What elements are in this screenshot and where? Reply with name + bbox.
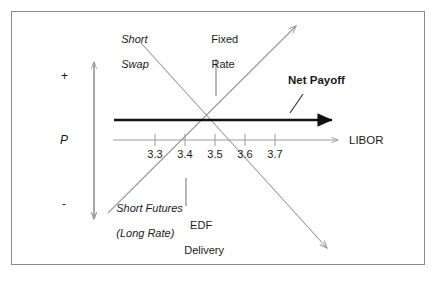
short-futures-label-line2: (Long Rate) (116, 227, 174, 239)
tick-label-3-6: 3.6 (231, 148, 259, 160)
tick-label-3-3: 3.3 (141, 148, 169, 160)
diagram-canvas: Short Swap Fixed Rate Net Payoff Short F… (0, 0, 440, 284)
tick-label-3-5: 3.5 (201, 148, 229, 160)
short-swap-label-line2: Swap (121, 58, 149, 70)
edf-delivery-label-line1: EDF (190, 219, 212, 231)
edf-delivery-label-line2: Delivery (184, 244, 224, 256)
tick-label-3-7: 3.7 (261, 148, 289, 160)
negative-sign-label: - (62, 198, 66, 210)
fixed-rate-label-line1: Fixed (211, 33, 238, 45)
libor-axis-label: LIBOR (349, 134, 384, 146)
tick-label-3-4: 3.4 (171, 148, 199, 160)
p-axis-label: P (60, 134, 68, 146)
short-swap-label: Short Swap (109, 20, 149, 83)
short-swap-label-line1: Short (121, 33, 147, 45)
fixed-rate-label: Fixed Rate (199, 20, 235, 83)
fixed-rate-label-line2: Rate (211, 58, 234, 70)
net-payoff-label: Net Payoff (288, 74, 345, 87)
positive-sign-label: + (61, 70, 68, 82)
edf-delivery-label: EDF Delivery (172, 206, 218, 269)
